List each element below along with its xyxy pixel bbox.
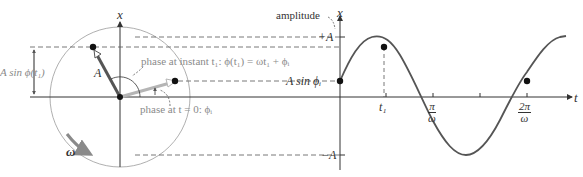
angular-velocity-label: ω (66, 145, 75, 158)
two-pi-over-omega-tick-label: 2π ω (518, 101, 531, 124)
pi-over-omega-denominator: ω (428, 113, 436, 124)
initial-point (337, 78, 343, 84)
plus-A-label: +A (318, 31, 333, 43)
phasor-amplitude-label: A (94, 67, 101, 79)
right-axes (340, 16, 572, 170)
displacement-curve (340, 36, 566, 155)
period-point (524, 78, 530, 84)
amplitude-label: amplitude (276, 10, 320, 21)
point-t0-on-circle (172, 78, 178, 84)
two-pi-over-omega-denominator: ω (521, 113, 529, 124)
phase-at-instant-label: phase at instant t₁: ϕ(t₁) = ωt₁ + ϕᵢ (141, 56, 289, 67)
right-x-axis-label: x (337, 6, 343, 19)
left-x-axis-label: x (117, 8, 123, 21)
phasor-diagram: x A sin ϕ(t₁) A phase at instant t₁: ϕ(t… (0, 0, 583, 177)
amplitude-pointer (328, 17, 335, 29)
pi-over-omega-tick-label: π ω (428, 101, 436, 124)
minus-A-label: −A (321, 149, 336, 161)
phasor-t0 (120, 79, 176, 97)
initial-value-label: A sin ϕᵢ (286, 75, 321, 87)
time-axis-label: t (574, 91, 578, 104)
phase-at-zero-label: phase at t = 0: ϕᵢ (140, 104, 212, 115)
t1-tick-label: t₁ (379, 101, 387, 113)
vertical-extent-label: A sin ϕ(t₁) (0, 67, 45, 78)
t1-point (381, 44, 387, 50)
point-t1-on-circle (90, 44, 96, 50)
origin-point (117, 94, 123, 100)
